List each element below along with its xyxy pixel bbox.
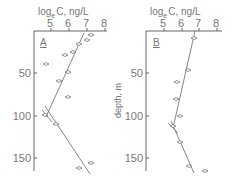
panel-b-xtick-5: 5 [160, 17, 166, 29]
panel-a-label: A [40, 37, 47, 48]
panel-b-ytick-100: 100 [125, 110, 143, 122]
panel-b: logeC, ng/L 5 6 7 8 50 100 150 depth, m … [113, 6, 222, 173]
panel-a: logeC, ng/L 5 6 7 8 50 100 150 A [13, 6, 107, 174]
panel-b-xtick-8: 8 [213, 17, 219, 29]
panel-b-ytick-50: 50 [131, 67, 143, 79]
panel-b-ytick-150: 150 [125, 152, 143, 164]
panel-a-ytick-150: 150 [13, 152, 31, 164]
panel-b-xaxis-title: logeC, ng/L [150, 6, 201, 19]
panel-a-xtick-8: 8 [101, 17, 107, 29]
panel-a-fit-upper [46, 33, 84, 117]
panel-b-label: B [153, 37, 160, 48]
ylabel-depth: depth, m [113, 83, 123, 118]
chart-figure: logeC, ng/L 5 6 7 8 50 100 150 A [0, 0, 237, 186]
panel-b-fit-upper [173, 31, 195, 128]
panel-a-points [42, 34, 94, 170]
panel-b-xtick-7: 7 [195, 17, 201, 29]
panel-a-ytick-100: 100 [13, 110, 31, 122]
panel-a-xtick-5: 5 [47, 17, 53, 29]
panel-a-xtick-6: 6 [65, 17, 71, 29]
panel-b-xtick-6: 6 [178, 17, 184, 29]
panel-a-xaxis-title: logeC, ng/L [38, 6, 89, 19]
panel-a-fit-lower [45, 106, 90, 174]
panel-a-xtick-7: 7 [83, 17, 89, 29]
panel-a-ytick-50: 50 [19, 67, 31, 79]
